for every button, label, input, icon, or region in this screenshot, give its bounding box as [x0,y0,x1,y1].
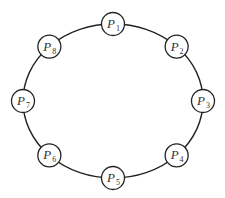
node-p4: P4 [165,144,188,167]
node-p2: P2 [165,35,188,58]
node-p1: P1 [102,13,125,36]
node-p7: P7 [12,90,35,113]
ring-diagram: P1P2P3P4P5P6P7P8 [0,0,225,198]
node-p8: P8 [38,35,61,58]
node-p5: P5 [102,167,125,190]
node-p3: P3 [192,90,215,113]
nodes-layer: P1P2P3P4P5P6P7P8 [12,13,215,190]
node-p6: P6 [38,144,61,167]
